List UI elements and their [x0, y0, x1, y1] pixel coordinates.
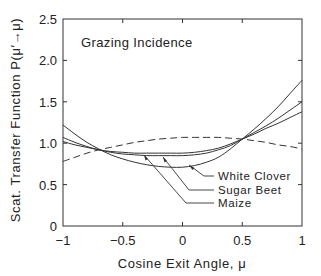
annotation-sugar-beet: Sugar Beet [218, 184, 282, 196]
arrow-heads [144, 155, 195, 170]
y-tick-label: 1.5 [39, 95, 57, 110]
x-tick-label: 0 [179, 233, 186, 248]
y-tick-label: 0 [50, 219, 57, 234]
chart-title: Grazing Incidence [81, 35, 193, 50]
x-axis-label: Cosine Exit Angle, μ [118, 256, 247, 271]
series-line-white-clover [63, 80, 302, 167]
y-tick-label: 0.5 [39, 178, 57, 193]
y-tick-label: 2.0 [39, 53, 57, 68]
x-tick-label: 0.5 [233, 233, 251, 248]
y-tick-label: 2.5 [39, 12, 57, 27]
x-tick-label: 1 [298, 233, 305, 248]
x-tick-label: −1 [56, 233, 71, 248]
annotation-leaders [144, 155, 214, 203]
series-line-unlabeled-dashed-reference [63, 137, 302, 161]
series-layer [63, 80, 302, 167]
annotation-white-clover: White Clover [218, 170, 291, 182]
chart: −1 −0.5 0 0.5 1 0 0.5 1.0 1.5 2.0 2.5 Co… [0, 0, 321, 276]
annotation-maize: Maize [218, 197, 252, 209]
y-tick-label: 1.0 [39, 136, 57, 151]
y-axis-label: Scat. Transfer Function P(μ′→μ) [8, 18, 23, 222]
x-tick-label: −0.5 [110, 233, 136, 248]
y-ticks [63, 60, 302, 184]
